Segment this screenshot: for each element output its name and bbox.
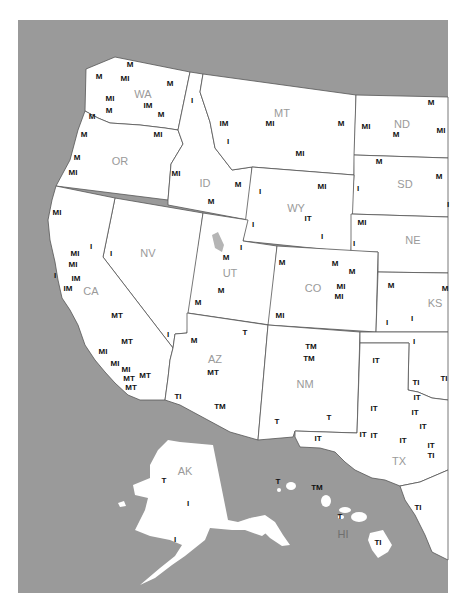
code-label: IT [399, 436, 406, 445]
code-label: M [338, 119, 345, 128]
code-label: IT [419, 422, 426, 431]
code-label: M [349, 267, 356, 276]
code-label: I [174, 535, 176, 544]
code-label: T [276, 477, 281, 486]
code-label: M [428, 98, 435, 107]
code-label: M [223, 253, 230, 262]
state-label-nd: ND [394, 118, 410, 130]
code-label: MI [121, 74, 130, 83]
state-label-wy: WY [287, 202, 305, 214]
code-label: MI [362, 122, 371, 131]
code-label: I [447, 200, 449, 209]
code-label: M [191, 336, 198, 345]
code-label: M [167, 79, 174, 88]
code-label: IT [427, 441, 434, 450]
code-label: IT [304, 214, 311, 223]
state-label-id: ID [200, 177, 211, 189]
us-western-states-map: WAORIDMTNDSDWYNENVUTCOKSCAAZNMTXAKHI MMM… [0, 0, 469, 614]
state-label-ut: UT [223, 267, 238, 279]
code-label: M [208, 197, 215, 206]
code-label: M [158, 110, 165, 119]
code-label: MT [123, 374, 135, 383]
code-label: MT [121, 337, 133, 346]
code-label: M [332, 259, 339, 268]
code-label: TM [305, 342, 317, 351]
code-label: MI [337, 282, 346, 291]
code-label: IT [372, 356, 379, 365]
code-label: MI [335, 292, 344, 301]
code-label: MI [99, 347, 108, 356]
code-label: I [353, 239, 355, 248]
state-label-ak: AK [178, 465, 193, 477]
code-label: T [338, 512, 343, 521]
code-label: MI [71, 249, 80, 258]
code-label: I [90, 242, 92, 251]
state-label-ca: CA [83, 285, 99, 297]
code-label: MI [276, 311, 285, 320]
code-label: MI [437, 126, 446, 135]
state-label-az: AZ [208, 353, 222, 365]
code-label: IT [314, 434, 321, 443]
code-label: I [110, 249, 112, 258]
code-label: M [436, 172, 443, 181]
code-label: M [127, 60, 134, 69]
code-label: I [227, 137, 229, 146]
code-label: TI [174, 392, 181, 401]
code-label: IT [359, 430, 366, 439]
state-label-tx: TX [392, 455, 407, 467]
code-label: I [191, 96, 193, 105]
code-label: M [195, 298, 202, 307]
code-label: I [187, 499, 189, 508]
state-label-mt: MT [274, 107, 290, 119]
code-label: IM [144, 101, 153, 110]
code-label: TI [427, 451, 434, 460]
state-label-co: CO [305, 282, 322, 294]
code-label: M [442, 284, 449, 293]
code-label: IM [72, 274, 81, 283]
code-label: IT [411, 408, 418, 417]
code-label: MI [266, 119, 275, 128]
code-label: MT [125, 383, 137, 392]
code-label: I [413, 337, 415, 346]
code-label: M [74, 153, 81, 162]
code-label: T [327, 413, 332, 422]
code-label: I [386, 318, 388, 327]
code-label: M [106, 106, 113, 115]
code-label: IT [413, 393, 420, 402]
code-label: MI [106, 94, 115, 103]
code-label: MI [154, 130, 163, 139]
code-label: MI [296, 149, 305, 158]
code-label: TI [412, 378, 419, 387]
state-label-nv: NV [140, 247, 156, 259]
code-label: TI [440, 374, 447, 383]
code-label: TM [214, 402, 226, 411]
state-label-hi: HI [338, 528, 349, 540]
code-label: T [275, 417, 280, 426]
state-label-nm: NM [296, 378, 313, 390]
code-label: I [357, 184, 359, 193]
state-label-sd: SD [397, 178, 412, 190]
code-label: TM [311, 483, 323, 492]
code-label: MT [207, 368, 219, 377]
code-label: TM [303, 354, 315, 363]
code-label: MI [111, 359, 120, 368]
code-label: MI [318, 182, 327, 191]
code-label: MI [69, 260, 78, 269]
state-label-wa: WA [134, 88, 152, 100]
code-label: IT [370, 404, 377, 413]
code-label: M [218, 286, 225, 295]
code-label: M [376, 157, 383, 166]
code-label: TI [374, 538, 381, 547]
code-label: M [235, 180, 242, 189]
code-label: MT [111, 311, 123, 320]
state-label-ne: NE [405, 234, 420, 246]
code-label: M [393, 130, 400, 139]
code-label: MI [358, 218, 367, 227]
code-label: M [279, 258, 286, 267]
state-label-ks: KS [428, 297, 443, 309]
code-label: I [240, 243, 242, 252]
state-label-or: OR [112, 155, 129, 167]
code-label: TI [414, 503, 421, 512]
code-label: MI [122, 365, 131, 374]
code-label: IT [370, 431, 377, 440]
